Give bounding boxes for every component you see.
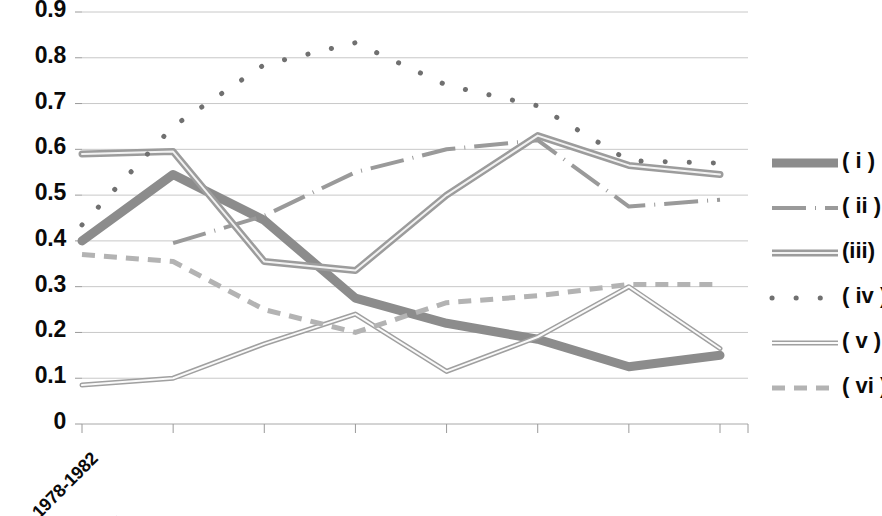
y-tick-label: 0.6 — [35, 133, 66, 160]
legend-entry-label: ( ii ) — [842, 193, 881, 219]
series-line — [82, 287, 720, 385]
legend-entry-label: ( v ) — [842, 328, 881, 354]
legend-entry-label: ( iv ) — [842, 283, 882, 309]
y-tick-label: 0.5 — [35, 179, 66, 206]
legend-entry-label: ( i ) — [842, 148, 875, 174]
series-line — [82, 255, 720, 333]
y-tick-label: 0.7 — [35, 88, 66, 115]
series-layer — [82, 43, 720, 385]
y-tick-label: 0.1 — [35, 362, 66, 389]
legend-marks — [772, 163, 838, 388]
y-tick-label: 0.3 — [35, 271, 66, 298]
axis-ticks — [82, 424, 748, 433]
series-line — [82, 43, 720, 225]
y-tick-label: 0.4 — [35, 225, 66, 252]
plot-area — [0, 0, 882, 516]
y-tick-label: 0.8 — [35, 42, 66, 69]
y-tick-label: 0.9 — [35, 0, 66, 23]
legend-entry-label: ( vi ) — [842, 373, 882, 399]
y-tick-label: 0 — [53, 408, 66, 435]
legend-entry-label: (iii) — [842, 238, 875, 264]
line-chart: 0.90.80.70.60.50.40.30.20.10 1978-198219… — [0, 0, 882, 516]
y-tick-label: 0.2 — [35, 316, 66, 343]
